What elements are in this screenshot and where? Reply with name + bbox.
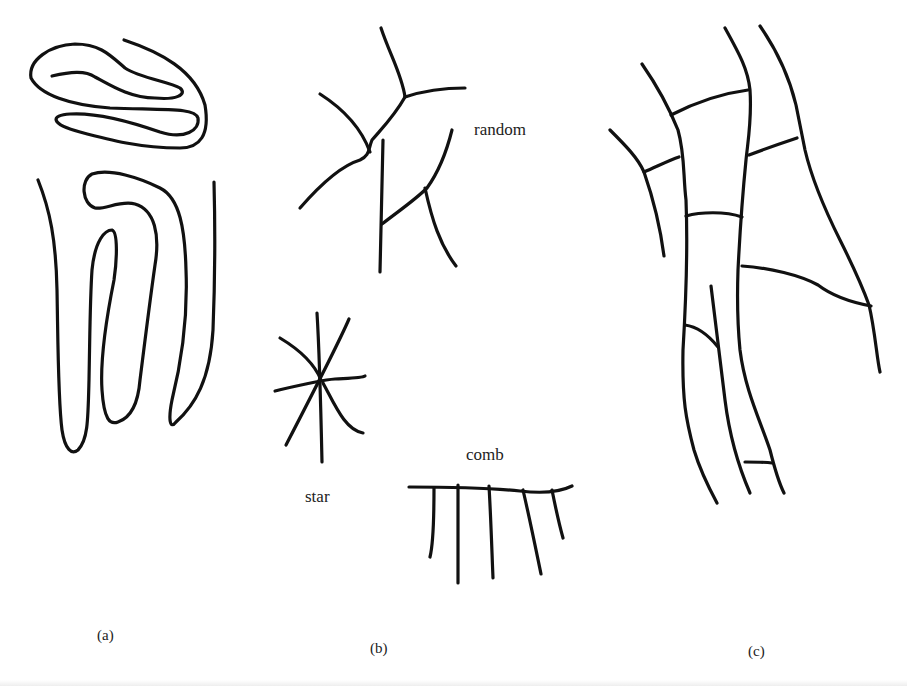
crosslink-6 <box>685 325 718 347</box>
folded-loop-top <box>31 40 207 148</box>
random-branch-5 <box>382 130 452 224</box>
star-ray-1 <box>317 313 322 462</box>
crosslink-4 <box>686 213 742 217</box>
filament-3 <box>725 28 784 493</box>
filament-2 <box>642 64 717 503</box>
panel-b-star-drawing <box>275 313 365 462</box>
comb-tooth-4 <box>523 490 541 574</box>
random-branch-2 <box>405 88 465 97</box>
comb-tooth-3 <box>489 486 493 578</box>
crosslink-7 <box>745 462 772 463</box>
comb-tooth-5 <box>552 490 563 538</box>
comb-tooth-1 <box>430 488 434 557</box>
crosslink-5 <box>742 266 871 306</box>
random-branch-6 <box>425 188 456 266</box>
random-trunk <box>380 140 383 272</box>
filament-4 <box>760 26 880 372</box>
filament-1 <box>610 130 664 256</box>
panel-label-a: (a) <box>97 628 114 643</box>
caption-cutoff <box>0 680 907 686</box>
panel-b-random-drawing <box>300 28 465 272</box>
crosslink-2 <box>671 90 748 115</box>
label-star: star <box>305 488 330 505</box>
panel-label-b: (b) <box>370 641 388 656</box>
star-ray-5 <box>323 383 363 433</box>
random-branch-4 <box>320 94 370 152</box>
random-branch-3 <box>300 97 405 208</box>
panel-a-drawing <box>31 40 215 452</box>
label-comb: comb <box>466 446 504 463</box>
panel-b-comb-drawing <box>409 485 572 583</box>
panel-c-drawing <box>610 26 880 503</box>
label-random: random <box>474 121 526 138</box>
crosslink-3 <box>749 138 797 155</box>
figure-canvas <box>0 0 907 686</box>
random-branch-1 <box>381 28 405 97</box>
hairpin-left <box>38 172 215 452</box>
panel-label-c: (c) <box>748 644 765 659</box>
crosslink-1 <box>644 157 679 172</box>
star-ray-3 <box>280 338 321 380</box>
